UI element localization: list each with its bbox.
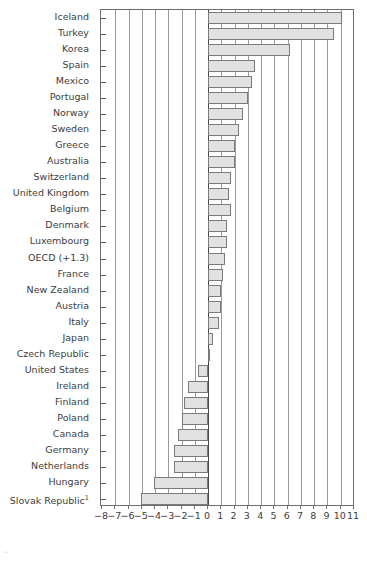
row-tick: [101, 355, 106, 356]
category-label: Germany: [0, 445, 89, 455]
xtick-label: 2: [231, 510, 237, 521]
xtick-label: 3: [244, 510, 250, 521]
bar: [208, 204, 231, 216]
category-label: Poland: [0, 413, 89, 423]
category-label: Netherlands: [0, 461, 89, 471]
bar-chart: IcelandTurkeyKoreaSpainMexicoPortugalNor…: [0, 0, 367, 562]
bar: [141, 493, 208, 505]
bar: [208, 253, 225, 265]
xtick-label: −4: [147, 510, 161, 521]
row-tick: [101, 114, 106, 115]
category-label: United Kingdom: [0, 188, 89, 198]
bar: [208, 285, 221, 297]
bar: [208, 349, 210, 361]
xtick-line: [181, 506, 182, 509]
row-tick: [101, 210, 106, 211]
bar: [208, 28, 334, 40]
bar: [174, 461, 208, 473]
xtick-label: 4: [257, 510, 263, 521]
xtick-label: 6: [284, 510, 290, 521]
category-label: Greece: [0, 140, 89, 150]
xtick-label: 1: [217, 510, 223, 521]
bar: [208, 156, 235, 168]
row-tick: [101, 130, 106, 131]
xtick-line: [101, 506, 102, 509]
bar: [208, 44, 290, 56]
plot-area: [100, 9, 354, 506]
gridline--4: [155, 10, 156, 505]
bar: [208, 301, 221, 313]
category-label: Czech Republic: [0, 349, 89, 359]
bar: [184, 397, 209, 409]
xtick-label: 9: [323, 510, 329, 521]
category-label: Iceland: [0, 12, 89, 22]
bar: [174, 445, 208, 457]
bar: [208, 108, 242, 120]
row-tick: [101, 307, 106, 308]
category-label: Luxembourg: [0, 236, 89, 246]
category-label: Norway: [0, 108, 89, 118]
xtick-line: [353, 506, 354, 509]
row-tick: [101, 387, 106, 388]
xtick-label: 8: [310, 510, 316, 521]
row-tick: [101, 259, 106, 260]
bar: [182, 413, 209, 425]
xtick-line: [326, 506, 327, 509]
xtick-label: −2: [174, 510, 188, 521]
xtick-line: [234, 506, 235, 509]
gridline-6: [288, 10, 289, 505]
xtick-line: [128, 506, 129, 509]
xtick-label: −7: [107, 510, 121, 521]
xtick-line: [220, 506, 221, 509]
bar: [208, 92, 248, 104]
xtick-label: −5: [134, 510, 148, 521]
gridline-10: [341, 10, 342, 505]
xtick-line: [154, 506, 155, 509]
category-label: Denmark: [0, 220, 89, 230]
row-tick: [101, 34, 106, 35]
row-tick: [101, 194, 106, 195]
category-label: Austria: [0, 301, 89, 311]
xtick-label: 0: [204, 510, 210, 521]
xtick-label: −1: [187, 510, 201, 521]
row-tick: [101, 18, 106, 19]
gridline-8: [314, 10, 315, 505]
xtick-line: [300, 506, 301, 509]
xtick-line: [273, 506, 274, 509]
row-tick: [101, 339, 106, 340]
category-label: Italy: [0, 317, 89, 327]
category-label: Sweden: [0, 124, 89, 134]
category-label: Ireland: [0, 381, 89, 391]
category-label: Turkey: [0, 28, 89, 38]
xtick-line: [194, 506, 195, 509]
row-tick: [101, 451, 106, 452]
category-label: Mexico: [0, 76, 89, 86]
row-tick: [101, 50, 106, 51]
bar: [208, 12, 342, 24]
row-tick: [101, 403, 106, 404]
value-axis: −8−7−6−5−4−3−2−101234567891011: [100, 506, 354, 528]
category-label: France: [0, 269, 89, 279]
category-label: Canada: [0, 429, 89, 439]
gridline--3: [168, 10, 169, 505]
row-tick: [101, 467, 106, 468]
category-label: OECD (+1.3): [0, 253, 89, 263]
row-tick: [101, 82, 106, 83]
xtick-line: [141, 506, 142, 509]
bar: [208, 188, 229, 200]
bar: [208, 333, 213, 345]
row-tick: [101, 499, 106, 500]
bar: [178, 429, 208, 441]
xtick-line: [114, 506, 115, 509]
bar: [208, 172, 231, 184]
bar: [198, 365, 208, 377]
xtick-line: [287, 506, 288, 509]
xtick-label: 5: [270, 510, 276, 521]
xtick-line: [313, 506, 314, 509]
gridline-5: [274, 10, 275, 505]
xtick-line: [260, 506, 261, 509]
xtick-line: [167, 506, 168, 509]
row-tick: [101, 146, 106, 147]
category-label: United States: [0, 365, 89, 375]
gridline-7: [301, 10, 302, 505]
